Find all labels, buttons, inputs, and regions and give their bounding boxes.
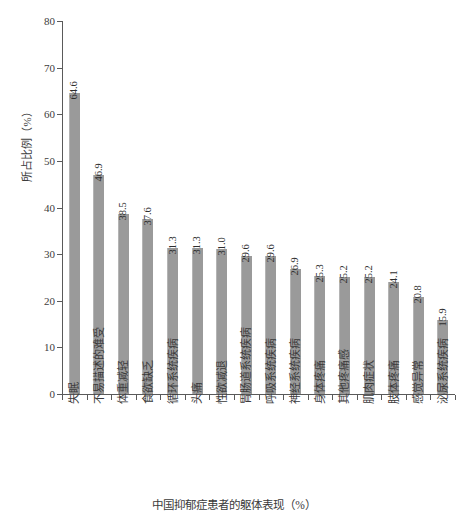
bar-value-label: 38.5 [118, 203, 129, 221]
y-axis-tick-mark [57, 347, 62, 348]
bar-value-label: 31.3 [167, 236, 178, 254]
x-axis-tick-mark [455, 395, 456, 400]
bar-value-label: 37.6 [142, 207, 153, 225]
x-axis-tick-mark [381, 395, 382, 400]
x-axis-tick-mark [160, 395, 161, 400]
x-axis-category-label: 体重减轻 [118, 360, 129, 404]
x-axis-category-label: 失眠 [69, 382, 80, 404]
bar-value-label: 31.0 [216, 238, 227, 256]
x-axis-tick-mark [62, 395, 63, 400]
bar-chart: 所占比例（%） 01020304050607080 64.646.938.537… [0, 0, 468, 522]
bar-value-label: 29.6 [265, 244, 276, 262]
y-axis-tick-mark [57, 114, 62, 115]
x-axis-category-label: 循环系统疾病 [168, 338, 179, 404]
x-axis-tick-mark [283, 395, 284, 400]
x-axis-category-label: 泌尿系统疾病 [438, 338, 449, 404]
y-axis-tick-mark [57, 161, 62, 162]
bar-value-label: 25.2 [339, 265, 350, 283]
y-axis-tick-label: 80 [23, 16, 55, 27]
bar-value-label: 29.6 [241, 244, 252, 262]
x-axis-title: 中国抑郁症患者的躯体表现（%） [0, 496, 468, 512]
y-axis-title: 所占比例（%） [18, 74, 34, 214]
x-axis-tick-mark [111, 395, 112, 400]
x-axis-category-label: 性欲减退 [217, 360, 228, 404]
y-axis-tick-label: 10 [23, 342, 55, 353]
y-axis-tick-mark [57, 21, 62, 22]
x-axis-category-label: 其他疼痛感 [339, 349, 350, 404]
bar-value-label: 64.6 [69, 81, 80, 99]
x-axis-tick-mark [259, 395, 260, 400]
x-axis-tick-mark [185, 395, 186, 400]
x-axis-category-label: 肌肉症状 [364, 360, 375, 404]
x-axis-tick-mark [136, 395, 137, 400]
bar-value-label: 31.3 [192, 236, 203, 254]
y-axis-tick-label: 70 [23, 62, 55, 73]
y-axis-tick-mark [57, 254, 62, 255]
x-axis-tick-mark [234, 395, 235, 400]
y-axis-tick-label: 30 [23, 249, 55, 260]
y-axis-line [62, 21, 63, 395]
bar-value-label: 24.1 [388, 270, 399, 288]
y-axis-tick-label: 0 [23, 389, 55, 400]
y-axis-tick-label: 50 [23, 155, 55, 166]
x-axis-category-label: 食欲缺乏 [143, 360, 154, 404]
y-axis-tick-mark [57, 208, 62, 209]
bar-value-label: 46.9 [93, 163, 104, 181]
y-axis-tick-mark [57, 301, 62, 302]
x-axis-tick-mark [332, 395, 333, 400]
x-axis-tick-mark [308, 395, 309, 400]
x-axis-tick-mark [209, 395, 210, 400]
y-axis-tick-label: 60 [23, 109, 55, 120]
y-axis-tick-label: 40 [23, 202, 55, 213]
x-axis-category-label: 胃肠道系统疾病 [241, 327, 252, 404]
bar-value-label: 25.3 [314, 264, 325, 282]
bar-value-label: 15.9 [437, 308, 448, 326]
x-axis-tick-mark [430, 395, 431, 400]
x-axis-category-label: 呼吸系统疾病 [266, 338, 277, 404]
y-axis-tick-mark [57, 68, 62, 69]
bar [69, 93, 80, 394]
x-axis-tick-mark [87, 395, 88, 400]
x-axis-tick-mark [406, 395, 407, 400]
x-axis-category-label: 感觉异常 [413, 360, 424, 404]
x-axis-tick-mark [357, 395, 358, 400]
bar-value-label: 20.8 [413, 285, 424, 303]
bar-value-label: 25.2 [364, 265, 375, 283]
x-axis-category-label: 身体疼痛 [315, 360, 326, 404]
x-axis-category-label: 头痛 [192, 382, 203, 404]
x-axis-category-label: 不易描述的难受 [94, 327, 105, 404]
x-axis-category-label: 神经系统疾病 [290, 338, 301, 404]
x-axis-category-label: 肢体疼痛 [389, 360, 400, 404]
bar [192, 248, 203, 394]
bar-value-label: 26.9 [290, 257, 301, 275]
y-axis-tick-label: 20 [23, 295, 55, 306]
